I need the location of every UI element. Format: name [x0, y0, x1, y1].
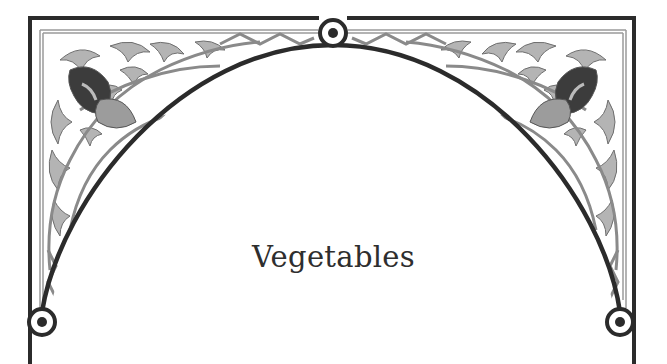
- left-corner-flower-icon: [69, 67, 136, 128]
- left-medallion-icon: [29, 309, 55, 335]
- top-medallion-icon: [320, 20, 346, 46]
- right-corner-flower-icon: [530, 67, 597, 128]
- right-medallion-icon: [607, 309, 633, 335]
- ornamental-arch-frame: [0, 0, 667, 364]
- page-title: Vegetables: [0, 240, 667, 274]
